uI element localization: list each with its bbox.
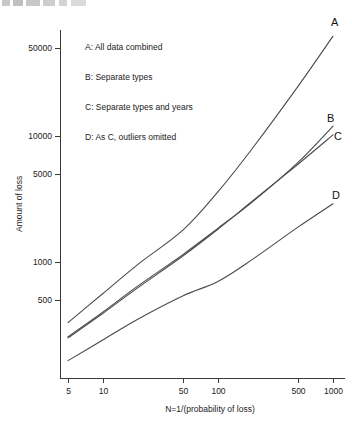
x-tick-label: 50	[164, 386, 204, 396]
x-tick-label: 1000	[314, 386, 352, 396]
plot-area	[0, 0, 352, 429]
y-tick-label: 500	[38, 295, 52, 305]
y-tick-label: 50000	[28, 43, 52, 53]
legend-entry-c: C: Separate types and years	[85, 102, 193, 112]
y-tick-label: 1000	[33, 257, 52, 267]
curve-c	[68, 135, 333, 338]
axes	[61, 30, 346, 379]
y-axis-label: Amount of loss	[14, 176, 24, 232]
y-tick-label: 5000	[33, 169, 52, 179]
legend-entry-a: A: All data combined	[85, 42, 163, 52]
x-tick-label: 500	[279, 386, 319, 396]
legend-entry-d: D: As C, outliers omitted	[85, 132, 176, 142]
legend-entry-b: B: Separate types	[85, 72, 153, 82]
y-tick-label: 10000	[28, 131, 52, 141]
curve-end-label-c: C	[334, 130, 342, 142]
y-axis-ticks	[55, 49, 60, 301]
curve-end-label-b: B	[327, 112, 334, 124]
x-axis-label: N=1/(probability of loss)	[120, 404, 300, 414]
x-tick-label: 10	[84, 386, 124, 396]
curve-d	[68, 204, 333, 361]
figure-canvas: Amount of loss N=1/(probability of loss)…	[0, 0, 352, 429]
curve-end-label-d: D	[332, 189, 340, 201]
x-tick-label: 100	[199, 386, 239, 396]
curve-end-label-a: A	[331, 16, 338, 28]
curve-b	[68, 126, 333, 337]
data-curves	[68, 36, 333, 360]
x-tick-label: 5	[49, 386, 89, 396]
